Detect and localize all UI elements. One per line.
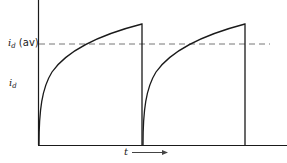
y-axis-label: id [9, 77, 17, 90]
drop-current-curve-1 [39, 24, 142, 145]
current-time-plot [0, 0, 287, 163]
drop-current-curve-2 [143, 24, 245, 145]
avg-current-label: id (av) [8, 37, 39, 50]
t-arrow-head-icon [162, 150, 168, 155]
x-axis-label: t [124, 146, 128, 157]
